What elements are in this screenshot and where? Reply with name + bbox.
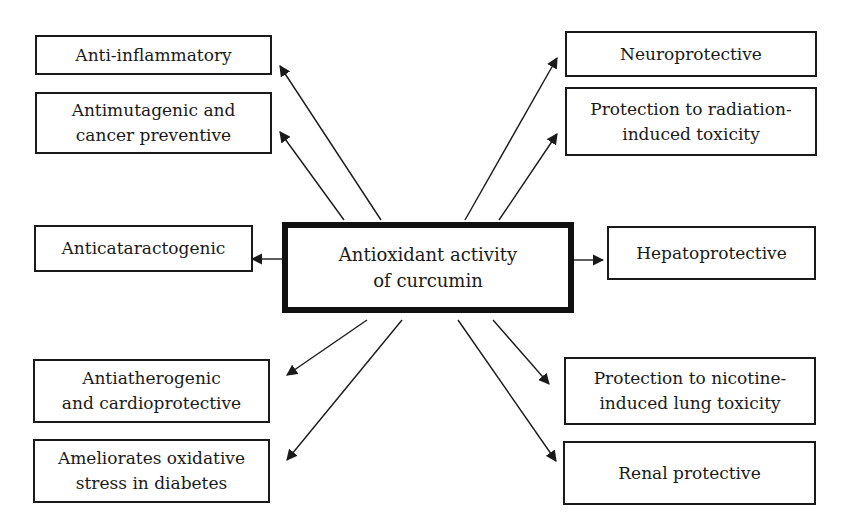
box-label: Renal protective	[618, 461, 760, 486]
arrow-to-antiatherogenic	[287, 320, 367, 375]
box-neuroprotective: Neuroprotective	[565, 31, 817, 77]
box-label: Anti-inflammatory	[75, 43, 231, 68]
arrow-to-radiation	[499, 134, 557, 220]
box-anti-inflammatory: Anti-inflammatory	[35, 35, 272, 75]
box-nicotine: Protection to nicotine- induced lung tox…	[564, 357, 816, 425]
box-label: Ameliorates oxidative stress in diabetes	[58, 446, 245, 496]
box-label: Antiatherogenic and cardioprotective	[62, 366, 241, 416]
box-label: Hepatoprotective	[636, 241, 787, 266]
arrow-to-anti-inflammatory	[280, 66, 381, 220]
box-label: Neuroprotective	[620, 42, 762, 67]
arrow-to-antimutagenic	[280, 132, 344, 220]
box-renal: Renal protective	[563, 441, 816, 505]
box-hepatoprotective: Hepatoprotective	[607, 226, 816, 280]
arrow-to-diabetes	[287, 320, 402, 460]
center-label: Antioxidant activity of curcumin	[339, 242, 517, 294]
box-label: Protection to nicotine- induced lung tox…	[594, 366, 787, 416]
box-label: Antimutagenic and cancer preventive	[72, 98, 236, 148]
arrow-to-nicotine	[493, 320, 549, 384]
box-center-antioxidant: Antioxidant activity of curcumin	[282, 222, 574, 313]
box-radiation: Protection to radiation- induced toxicit…	[565, 87, 817, 156]
arrow-to-renal	[458, 320, 556, 461]
box-antiatherogenic: Antiatherogenic and cardioprotective	[33, 359, 270, 423]
arrow-to-neuroprotective	[465, 58, 557, 220]
box-diabetes: Ameliorates oxidative stress in diabetes	[33, 439, 270, 503]
box-label: Anticataractogenic	[62, 236, 226, 261]
box-anticataractogenic: Anticataractogenic	[34, 225, 253, 272]
box-label: Protection to radiation- induced toxicit…	[590, 97, 791, 147]
box-antimutagenic: Antimutagenic and cancer preventive	[35, 92, 272, 154]
